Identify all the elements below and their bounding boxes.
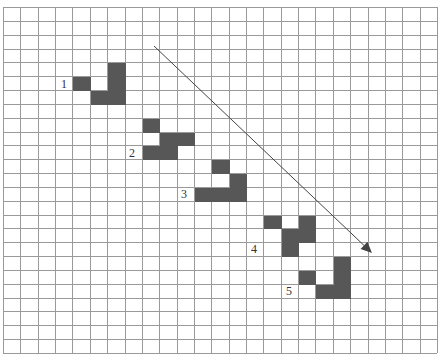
filled-cell xyxy=(264,216,282,229)
filled-cell xyxy=(212,188,230,202)
filled-cell xyxy=(230,188,247,202)
filled-cell xyxy=(299,216,316,229)
shape-label: 1 xyxy=(61,77,67,91)
filled-cell xyxy=(108,63,126,77)
filled-cell xyxy=(212,160,230,174)
filled-cell xyxy=(334,271,351,285)
filled-cell xyxy=(334,285,351,299)
filled-cell xyxy=(178,133,195,146)
shape-label: 5 xyxy=(286,284,292,298)
filled-cell xyxy=(108,91,126,105)
shape-label: 3 xyxy=(181,187,187,201)
shape-5: 5 xyxy=(286,257,351,299)
shape-label: 2 xyxy=(129,146,135,160)
filled-cell xyxy=(143,146,160,160)
filled-cell xyxy=(91,91,108,105)
glider-grid-diagram: 12345 xyxy=(0,0,439,359)
filled-cell xyxy=(334,257,351,271)
filled-cell xyxy=(299,229,316,243)
shape-1: 1 xyxy=(61,63,126,105)
shape-3: 3 xyxy=(181,160,247,202)
filled-cell xyxy=(160,133,178,146)
filled-cell xyxy=(195,188,212,202)
filled-cell xyxy=(299,271,316,285)
filled-cell xyxy=(108,77,126,91)
shape-label: 4 xyxy=(251,242,257,256)
shape-2: 2 xyxy=(129,119,195,161)
filled-cell xyxy=(316,285,334,299)
filled-cell xyxy=(282,243,299,257)
filled-cell xyxy=(160,146,178,160)
grid-lines xyxy=(3,7,438,354)
shape-groups: 12345 xyxy=(61,63,351,299)
filled-cell xyxy=(73,77,91,91)
filled-cell xyxy=(143,119,160,133)
filled-cell xyxy=(282,229,299,243)
shape-4: 4 xyxy=(251,216,316,257)
filled-cell xyxy=(230,174,247,188)
